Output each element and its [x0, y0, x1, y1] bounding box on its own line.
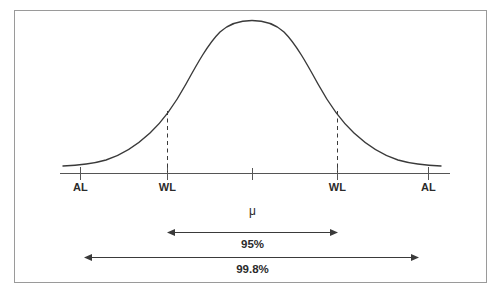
label-998-percent: 99.8%	[236, 263, 269, 275]
axis-label-wl-left: WL	[159, 181, 177, 193]
figure-container: AL WL WL AL μ 95% 99.8%	[0, 0, 501, 296]
mean-symbol-label: μ	[249, 204, 256, 218]
axis-label-al-left: AL	[73, 181, 88, 193]
axis-label-al-right: AL	[421, 181, 436, 193]
label-95-percent: 95%	[241, 238, 264, 250]
normal-distribution-diagram: AL WL WL AL μ 95% 99.8%	[0, 0, 501, 296]
axis-label-wl-right: WL	[329, 181, 347, 193]
